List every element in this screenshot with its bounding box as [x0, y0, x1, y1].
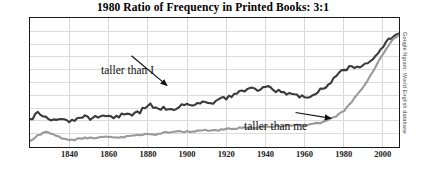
data-curves — [30, 18, 399, 147]
x-axis-tick-label: 1900 — [179, 149, 196, 159]
chart-figure: 1980 Ratio of Frequency in Printed Books… — [0, 0, 426, 171]
x-axis-tick-label: 1880 — [139, 149, 156, 159]
source-credit: Google Ngram: World English database — [398, 17, 412, 148]
x-axis-tick-label: 1860 — [100, 149, 117, 159]
series-line — [30, 34, 399, 123]
plot-area: taller than I taller than me — [29, 17, 400, 148]
annotation-taller-than-me: taller than me — [244, 120, 307, 132]
x-axis-ticks: 184018601880190019201940196019802000 — [29, 149, 400, 163]
x-axis-tick-label: 1980 — [335, 149, 352, 159]
chart-title: 1980 Ratio of Frequency in Printed Books… — [0, 1, 426, 13]
x-axis-tick-label: 1940 — [257, 149, 274, 159]
annotation-taller-than-i: taller than I — [101, 64, 154, 76]
series-line — [30, 35, 399, 141]
source-credit-label: Google Ngram: World English database — [402, 31, 408, 133]
x-axis-tick-label: 1840 — [61, 149, 78, 159]
x-axis-tick-label: 1960 — [296, 149, 313, 159]
x-axis-tick-label: 1920 — [218, 149, 235, 159]
x-axis-tick-label: 2000 — [374, 149, 391, 159]
